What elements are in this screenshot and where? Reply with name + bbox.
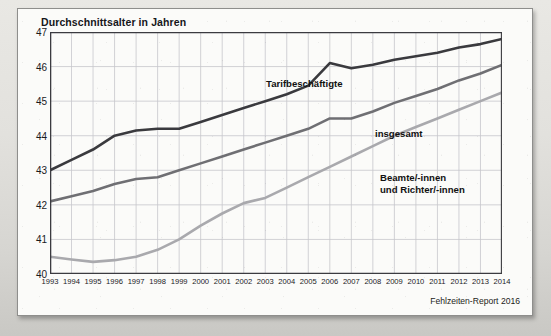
page-title: Durchschnittsalter in Jahren	[41, 16, 186, 28]
x-tick-2011: 2011	[429, 277, 445, 286]
x-axis-tick-labels: 1993199419951996199719981999200020012002…	[50, 277, 502, 291]
x-tick-1994: 1994	[63, 277, 80, 286]
series-annotation-tarifbeschaeftigte: Tarifbeschäftigte	[266, 78, 343, 90]
series-annotation-beamte-line2: und Richter/-innen	[380, 184, 465, 195]
source-note: Fehlzeiten-Report 2016	[430, 296, 520, 306]
x-tick-2005: 2005	[300, 277, 317, 286]
x-tick-1999: 1999	[171, 277, 188, 286]
x-tick-2010: 2010	[407, 277, 424, 286]
x-tick-2008: 2008	[364, 277, 381, 286]
x-tick-2004: 2004	[278, 277, 295, 286]
y-tick-42: 42	[25, 199, 47, 210]
x-tick-2013: 2013	[472, 277, 489, 286]
y-tick-44: 44	[25, 130, 47, 141]
x-tick-1997: 1997	[128, 277, 145, 286]
x-tick-1995: 1995	[85, 277, 102, 286]
x-tick-2006: 2006	[321, 277, 338, 286]
series-annotation-beamte-richter: Beamte/-innen und Richter/-innen	[380, 172, 465, 195]
series-annotation-beamte-line1: Beamte/-innen	[380, 172, 446, 183]
x-tick-1998: 1998	[149, 277, 166, 286]
y-tick-47: 47	[25, 27, 47, 38]
y-tick-41: 41	[25, 234, 47, 245]
series-annotation-insgesamt: insgesamt	[375, 128, 422, 140]
x-tick-1993: 1993	[42, 277, 59, 286]
x-tick-2003: 2003	[257, 277, 274, 286]
series-lines	[50, 39, 502, 262]
y-axis-tick-labels: 4041424344454647	[21, 32, 47, 274]
grid-lines	[50, 32, 502, 274]
x-tick-2009: 2009	[386, 277, 403, 286]
axis-lines	[50, 32, 502, 274]
x-tick-2000: 2000	[192, 277, 209, 286]
figure-inner: Durchschnittsalter in Jahren 40414243444…	[18, 9, 532, 315]
figure-frame: Durchschnittsalter in Jahren 40414243444…	[17, 8, 533, 316]
x-tick-2001: 2001	[214, 277, 231, 286]
x-tick-1996: 1996	[106, 277, 123, 286]
x-tick-2002: 2002	[235, 277, 252, 286]
y-tick-45: 45	[25, 96, 47, 107]
plot-area	[50, 32, 502, 274]
line-chart-svg	[50, 32, 502, 274]
y-tick-43: 43	[25, 165, 47, 176]
x-tick-2007: 2007	[343, 277, 360, 286]
x-tick-2012: 2012	[450, 277, 467, 286]
x-tick-2014: 2014	[494, 277, 511, 286]
y-tick-46: 46	[25, 61, 47, 72]
